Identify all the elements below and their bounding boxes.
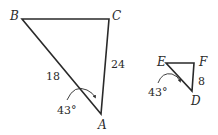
triangle-efd-shape [166,63,194,91]
triangle-abc-shape [22,19,109,114]
vertex-c-label: C [112,9,121,23]
triangle-abc: B C A 18 24 43° [9,9,125,132]
similar-triangles-diagram: B C A 18 24 43° E F D 8 43° [0,0,218,135]
side-ba-length: 18 [46,70,60,83]
side-ca-length: 24 [111,58,125,71]
vertex-a-label: A [97,118,107,132]
angle-a-measure: 43° [57,104,77,117]
vertex-e-label: E [156,55,166,69]
vertex-b-label: B [9,9,19,23]
vertex-f-label: F [198,55,208,69]
angle-d-measure: 43° [148,86,168,99]
side-fd-length: 8 [198,75,205,88]
triangle-efd: E F D 8 43° [148,55,208,108]
vertex-d-label: D [190,94,201,108]
